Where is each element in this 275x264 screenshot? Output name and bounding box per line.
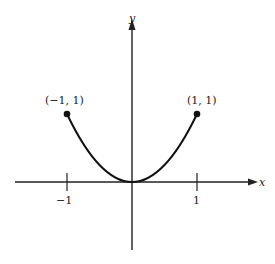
point-neg1-1 [64, 111, 71, 118]
point-label-neg1-1: (−1, 1) [45, 94, 84, 107]
plot-canvas: y x (−1, 1) (1, 1) −1 1 [0, 0, 275, 264]
point-label-1-1: (1, 1) [187, 94, 217, 107]
y-axis-label: y [128, 12, 136, 25]
y-axis [129, 19, 136, 250]
point-1-1 [194, 111, 201, 118]
x-axis-label: x [259, 176, 266, 189]
x-axis-arrow-icon [248, 179, 258, 186]
x-tick-label-1: 1 [193, 194, 200, 207]
x-tick-label-neg1: −1 [56, 194, 72, 207]
parabola-diagram: y x (−1, 1) (1, 1) −1 1 [0, 0, 275, 264]
